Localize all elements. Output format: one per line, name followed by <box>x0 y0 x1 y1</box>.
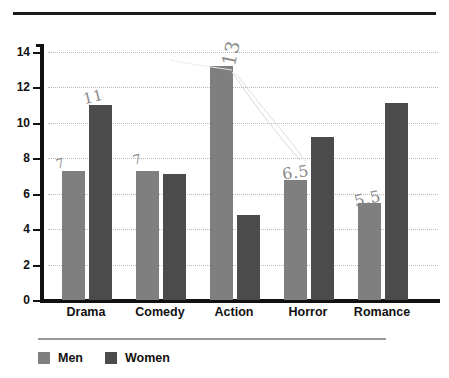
legend-swatch-men-icon <box>38 352 50 364</box>
y-tick-label-10: 10 <box>6 117 30 129</box>
bar-romance-women <box>385 103 408 300</box>
chart-legend: Men Women <box>38 352 170 365</box>
y-tick-label-4: 4 <box>6 223 30 235</box>
y-tick-0 <box>33 300 41 302</box>
annotation-action-men: 13 <box>217 38 244 67</box>
legend-swatch-women-icon <box>105 352 117 364</box>
y-tick-label-8: 8 <box>6 152 30 164</box>
x-label-romance: Romance <box>345 306 419 319</box>
y-tick-14 <box>33 52 41 54</box>
bar-drama-men <box>62 171 85 300</box>
legend-item-women: Women <box>105 352 170 365</box>
plot-area: 14 12 10 8 6 4 2 0 7 11 7 1 <box>0 0 449 378</box>
bar-comedy-women <box>163 174 186 300</box>
bar-romance-men <box>358 203 381 300</box>
x-label-comedy: Comedy <box>125 306 195 319</box>
y-axis-line <box>40 44 44 302</box>
y-tick-4 <box>33 229 41 231</box>
annotation-horror-men: 6.5 <box>281 161 310 184</box>
y-tick-label-12: 12 <box>6 81 30 93</box>
y-tick-8 <box>33 158 41 160</box>
x-label-action: Action <box>199 306 269 319</box>
bar-action-men <box>210 66 233 300</box>
y-tick-label-2: 2 <box>6 259 30 271</box>
bar-comedy-men <box>136 171 159 300</box>
bar-drama-women <box>89 105 112 300</box>
bar-chart-figure: 14 12 10 8 6 4 2 0 7 11 7 1 <box>0 0 449 378</box>
y-axis-cap <box>36 44 44 47</box>
y-tick-label-0: 0 <box>6 294 30 306</box>
bar-horror-women <box>311 137 334 300</box>
y-tick-6 <box>33 194 41 196</box>
legend-divider-rule <box>38 338 386 340</box>
bar-action-women <box>237 215 260 300</box>
y-tick-10 <box>33 123 41 125</box>
y-tick-2 <box>33 265 41 267</box>
x-label-drama: Drama <box>51 306 121 319</box>
y-tick-label-14: 14 <box>6 46 30 58</box>
legend-item-men: Men <box>38 352 83 365</box>
legend-label-women: Women <box>125 352 170 365</box>
y-tick-label-6: 6 <box>6 188 30 200</box>
legend-label-men: Men <box>58 352 83 365</box>
annotation-comedy-men: 7 <box>131 151 143 168</box>
gridline-12 <box>48 87 438 88</box>
x-label-horror: Horror <box>273 306 343 319</box>
gridline-14 <box>48 52 438 53</box>
bar-horror-men <box>284 180 307 300</box>
y-tick-12 <box>33 87 41 89</box>
